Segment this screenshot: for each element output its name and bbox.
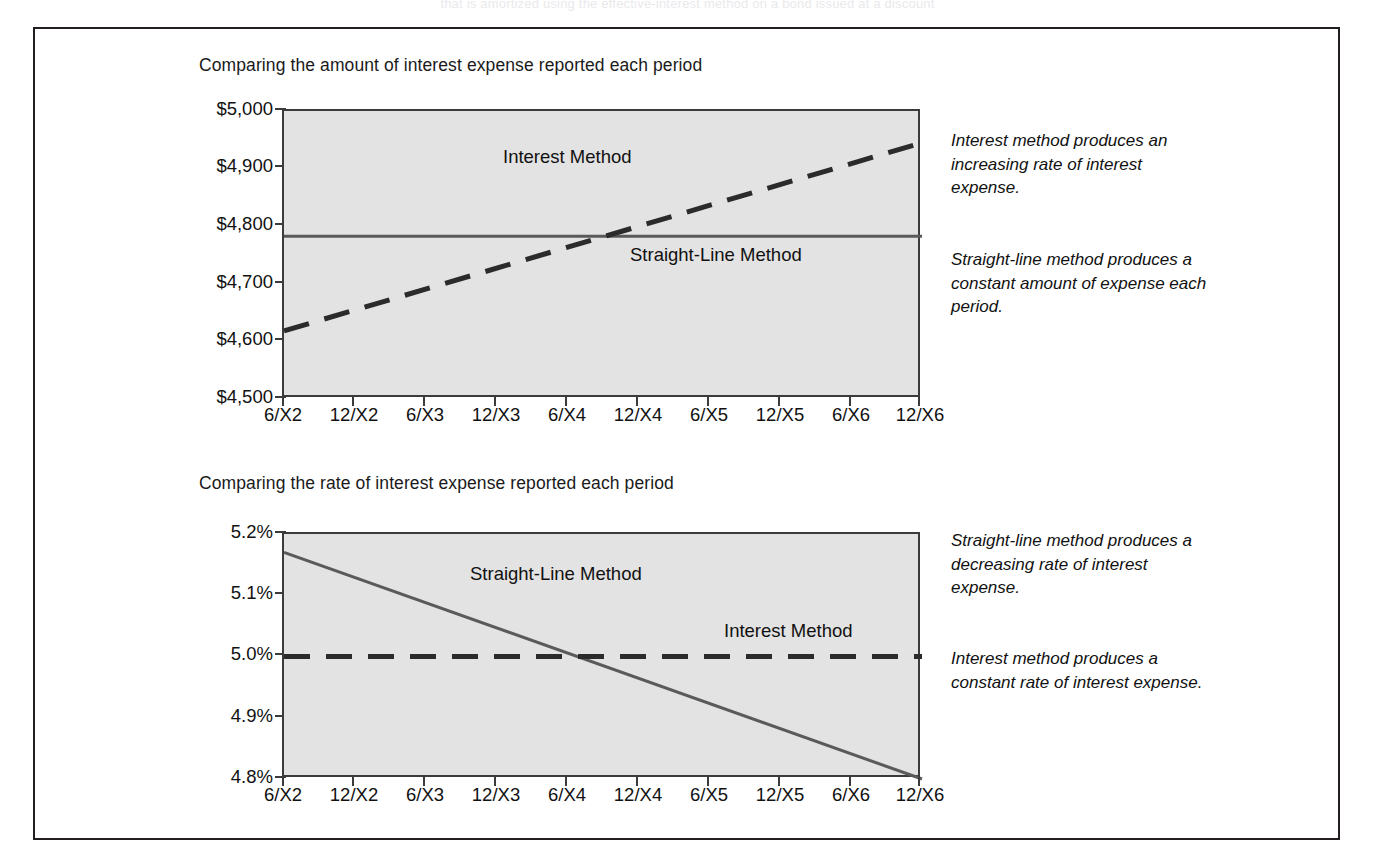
chart-panel-amount: Comparing the amount of interest expense…: [35, 29, 1338, 429]
y-tick-label: $5,000: [185, 98, 273, 120]
chart-panel-rate: Comparing the rate of interest expense r…: [35, 429, 1338, 839]
x-tick-label: 6/X3: [406, 784, 444, 806]
x-tick-label: 6/X2: [264, 404, 302, 426]
series-label-straight-line-method: Straight-Line Method: [630, 244, 802, 266]
annotation-interest-increasing: Interest method produces an increasing r…: [951, 129, 1211, 200]
x-tick-label: 12/X2: [330, 784, 378, 806]
x-tick-label: 6/X5: [690, 784, 728, 806]
series-line-straight-line: [284, 552, 922, 779]
figure-frame: Comparing the amount of interest expense…: [33, 27, 1340, 840]
chart-title-amount: Comparing the amount of interest expense…: [199, 55, 702, 76]
x-tick-label: 12/X5: [756, 404, 804, 426]
page-cutoff-text: that is amortized using the effective-in…: [0, 0, 1375, 14]
y-tick-label: $4,600: [185, 328, 273, 350]
page-root: that is amortized using the effective-in…: [0, 0, 1375, 867]
annotation-straight-line-constant: Straight-line method produces a constant…: [951, 248, 1211, 319]
x-tick-label: 12/X6: [896, 784, 944, 806]
y-tick-label: $4,500: [185, 386, 273, 408]
x-tick-label: 12/X3: [472, 404, 520, 426]
y-tick-label: 5.0%: [195, 643, 273, 665]
annotation-interest-constant: Interest method produces a constant rate…: [951, 647, 1211, 694]
x-tick-label: 6/X6: [832, 404, 870, 426]
x-tick-label: 6/X6: [832, 784, 870, 806]
y-tick-label: $4,800: [185, 213, 273, 235]
x-tick-label: 6/X4: [548, 784, 586, 806]
x-tick-label: 12/X5: [756, 784, 804, 806]
x-tick-label: 12/X3: [472, 784, 520, 806]
x-tick-label: 6/X3: [406, 404, 444, 426]
x-tick-label: 12/X4: [614, 404, 662, 426]
y-tick-label: 5.1%: [195, 582, 273, 604]
x-tick-label: 12/X4: [614, 784, 662, 806]
series-label-interest-method: Interest Method: [724, 620, 853, 642]
x-tick-label: 12/X6: [896, 404, 944, 426]
x-tick-label: 12/X2: [330, 404, 378, 426]
x-tick-label: 6/X4: [548, 404, 586, 426]
x-tick-label: 6/X2: [264, 784, 302, 806]
chart-title-rate: Comparing the rate of interest expense r…: [199, 473, 674, 494]
plot-area-rate: Straight-Line Method Interest Method: [282, 532, 920, 777]
y-tick-label: 4.9%: [195, 705, 273, 727]
annotation-straight-line-decreasing: Straight-line method produces a decreasi…: [951, 529, 1211, 600]
y-tick-label: $4,900: [185, 155, 273, 177]
y-tick-label: 4.8%: [195, 766, 273, 788]
x-tick-label: 6/X5: [690, 404, 728, 426]
y-tick-label: $4,700: [185, 271, 273, 293]
plot-area-amount: Interest Method Straight-Line Method: [282, 109, 920, 397]
series-label-interest-method: Interest Method: [503, 146, 632, 168]
series-label-straight-line-method: Straight-Line Method: [470, 563, 642, 585]
y-tick-label: 5.2%: [195, 521, 273, 543]
